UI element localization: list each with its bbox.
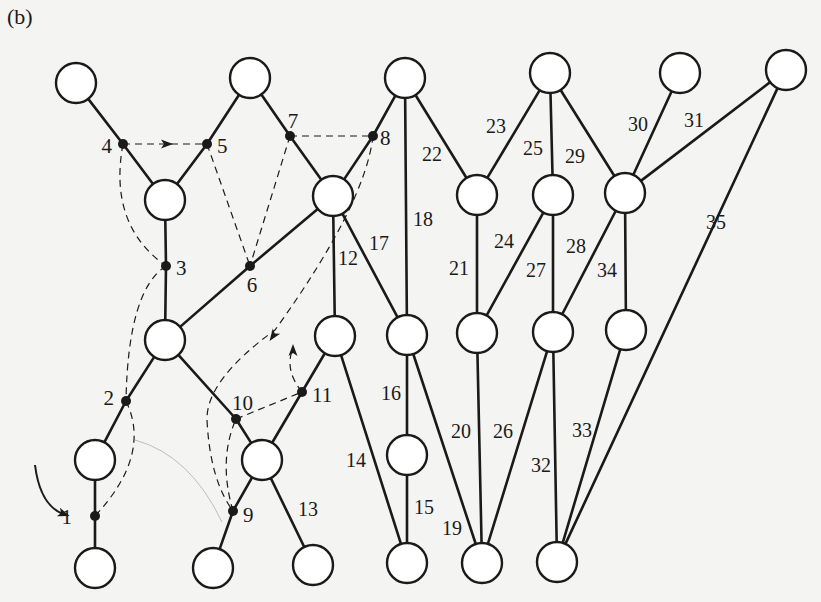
node-R — [75, 440, 115, 480]
node-B — [230, 58, 270, 98]
arrow-head-icon — [266, 329, 280, 344]
start-curve — [35, 465, 63, 514]
edge — [220, 511, 233, 549]
edge-label-12: 12 — [338, 247, 358, 269]
edge-label-29: 29 — [565, 145, 585, 167]
edge-label-20: 20 — [451, 420, 471, 442]
edge — [165, 220, 166, 266]
edge-20 — [477, 353, 481, 543]
node-W — [293, 545, 333, 585]
node-P — [533, 312, 573, 352]
junction-dot-2 — [121, 396, 131, 406]
edge — [290, 136, 321, 180]
node-L — [145, 320, 185, 360]
edge-label-15: 15 — [414, 496, 434, 518]
junction-label-2: 2 — [104, 386, 115, 410]
junction-dot-8 — [368, 131, 378, 141]
edge — [344, 136, 373, 179]
edge-label-34: 34 — [597, 259, 617, 281]
node-Q — [606, 310, 646, 350]
junction-dot-1 — [90, 511, 100, 521]
node-A — [56, 63, 96, 103]
junction-dot-9 — [228, 506, 238, 516]
dash-5-to-6 — [207, 144, 250, 266]
edge — [261, 94, 290, 136]
junction-label-7: 7 — [288, 109, 299, 133]
node-I — [457, 175, 497, 215]
edge-label-27: 27 — [526, 259, 546, 281]
node-E — [660, 53, 700, 93]
junction-label-3: 3 — [176, 256, 187, 280]
edge — [250, 209, 318, 266]
dash-9-to-10 — [226, 419, 236, 511]
node-Z — [537, 542, 577, 582]
node-D — [530, 53, 570, 93]
node-M — [315, 316, 355, 356]
node-S — [242, 440, 282, 480]
junction-dot-5 — [202, 139, 212, 149]
junction-label-1: 1 — [62, 505, 73, 529]
edge-label-21: 21 — [449, 257, 469, 279]
junction-label-10: 10 — [232, 391, 253, 415]
edge-label-16: 16 — [381, 382, 401, 404]
graph-canvas: 1234567891011 12131415161718192021222324… — [0, 0, 821, 602]
edge-label-layer: 1213141516171819202122232425262728293031… — [298, 109, 726, 539]
junction-dot-10 — [231, 414, 241, 424]
junction-dot-11 — [297, 387, 307, 397]
edge — [180, 266, 250, 327]
panel-label: (b) — [7, 4, 33, 30]
edge-label-13: 13 — [298, 498, 318, 520]
graph-figure: (b) 1234567891011 1213141516171819202122… — [0, 0, 821, 602]
edge-label-30: 30 — [628, 113, 648, 135]
edge-label-23: 23 — [486, 115, 506, 137]
node-N — [387, 315, 427, 355]
edge-label-32: 32 — [531, 454, 551, 476]
edge-label-33: 33 — [572, 419, 592, 441]
junction-label-4: 4 — [102, 134, 113, 158]
node-U — [75, 548, 115, 588]
faint-curve — [135, 440, 222, 522]
edge-label-25: 25 — [523, 137, 543, 159]
dash-7-to-6 — [250, 136, 290, 266]
edge-12 — [333, 216, 334, 316]
edge — [126, 357, 154, 401]
junction-label-8: 8 — [380, 126, 391, 150]
node-K — [605, 173, 645, 213]
edge-32 — [553, 352, 556, 542]
junction-dot-3 — [161, 261, 171, 271]
node-O — [457, 313, 497, 353]
edge-label-24: 24 — [494, 230, 514, 252]
edge-label-18: 18 — [413, 208, 433, 230]
edge-label-14: 14 — [346, 449, 366, 471]
edge — [272, 392, 302, 443]
junction-label-11: 11 — [312, 383, 332, 407]
edge-label-35: 35 — [706, 211, 726, 233]
node-C — [385, 58, 425, 98]
node-G — [145, 180, 185, 220]
edge-25 — [550, 93, 552, 175]
node-H — [313, 176, 353, 216]
edge-18 — [405, 98, 407, 315]
edge-label-22: 22 — [422, 143, 442, 165]
edge — [123, 144, 153, 184]
edge-22 — [415, 95, 466, 178]
edge-31 — [641, 82, 770, 181]
junction-label-9: 9 — [243, 503, 254, 527]
edge-label-26: 26 — [493, 420, 513, 442]
arrow-head-icon — [289, 344, 298, 356]
junction-dot-4 — [118, 139, 128, 149]
edge — [177, 144, 207, 184]
edge-label-19: 19 — [442, 517, 462, 539]
node-V — [193, 548, 233, 588]
faint-curve-layer — [135, 440, 222, 522]
edge-label-28: 28 — [566, 235, 586, 257]
edge — [178, 355, 236, 419]
node-X — [387, 543, 427, 583]
node-Y — [462, 543, 502, 583]
edge-label-17: 17 — [369, 232, 389, 254]
node-J — [533, 175, 573, 215]
node-T — [387, 435, 427, 475]
junction-label-6: 6 — [247, 273, 258, 297]
junction-dot-6 — [245, 261, 255, 271]
junction-label-5: 5 — [217, 134, 228, 158]
